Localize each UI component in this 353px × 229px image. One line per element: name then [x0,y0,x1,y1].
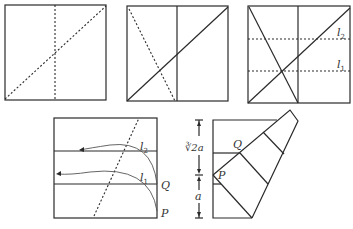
panel-4-arrowhead-p-icon [56,171,61,176]
panel-3: l2 l1 [248,6,350,103]
panel-1 [5,5,106,100]
dim-arrow-icon [197,169,201,174]
panel-5-fan-outline [213,110,298,218]
panel-5-q-crease [240,153,268,184]
dim-arrow-icon [197,212,201,217]
panel-5: Q P ∛2a a [185,110,298,218]
panel-5-p-label: P [217,169,226,182]
panel-4: l2 l1 Q P [54,118,170,220]
panel-5-q-label: Q [233,138,242,151]
panel-4-l1-label: l1 [140,171,148,186]
panel-4-square [54,118,157,218]
panel-2-slant-crease [129,9,175,101]
panel-3-l1-label: l1 [337,58,345,73]
dim-upper-label: ∛2a [185,141,204,153]
panel-4-fold-crease [94,118,139,216]
panel-4-p-label: P [160,207,169,220]
panel-2 [127,6,228,101]
origami-cube-root-diagram: l2 l1 l2 l1 Q P Q P [0,0,353,229]
dim-arrow-icon [197,176,201,181]
dim-arrow-icon [197,121,201,126]
panel-4-l2-label: l2 [140,140,148,155]
dim-lower-label: a [195,190,202,203]
panel-3-l2-label: l2 [337,26,345,41]
panel-3-diagonal [248,8,350,103]
panel-4-q-label: Q [161,179,170,192]
panel-3-slant-line [249,7,298,103]
panel-5-top-crease [263,132,284,154]
